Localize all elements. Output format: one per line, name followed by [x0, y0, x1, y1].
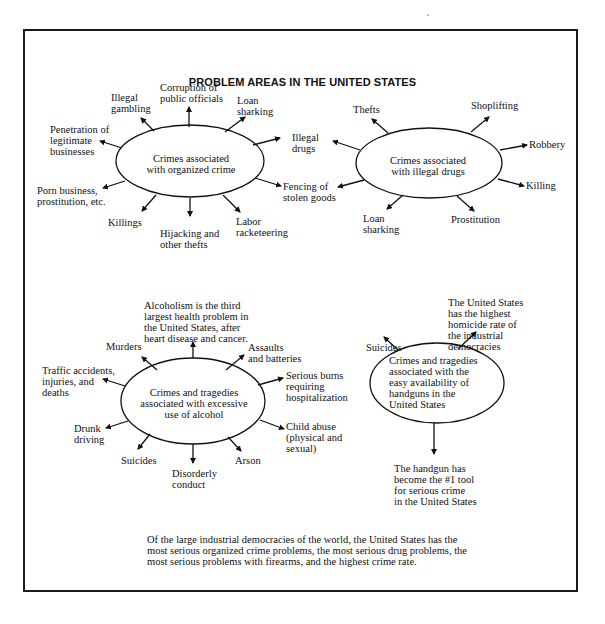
label-serious-burns: Serious burns requiring hospitalization — [286, 370, 348, 403]
label-traffic-accidents: Traffic accidents, injuries, and deaths — [42, 365, 115, 398]
label-hijacking: Hijacking and other thefts — [160, 228, 219, 250]
organized-crime-center: Crimes associated with organized crime — [141, 153, 241, 175]
illegal-drugs-center: Crimes associated with illegal drugs — [378, 155, 478, 177]
label-loan-sharking: Loan sharking — [237, 95, 273, 117]
label-killing: Killing — [526, 180, 556, 191]
label-alcoholism-note: Alcoholism is the third largest health p… — [144, 300, 249, 344]
label-fencing: Fencing of stolen goods — [283, 181, 336, 203]
label-robbery: Robbery — [529, 139, 565, 150]
label-drugs-loan-sharking: Loan sharking — [363, 213, 399, 235]
label-handgun-tool: The handgun has become the #1 tool for s… — [394, 463, 477, 507]
handguns-center: Crimes and tragedies associated with the… — [389, 355, 478, 410]
label-illegal-gambling: Illegal gambling — [111, 92, 151, 114]
label-homicide-rate: The United States has the highest homici… — [448, 297, 523, 352]
label-thefts: Thefts — [353, 104, 380, 115]
label-shoplifting: Shoplifting — [471, 100, 518, 111]
label-murders: Murders — [106, 341, 142, 352]
footnote: Of the large industrial democracies of t… — [147, 534, 477, 567]
label-illegal-drugs: Illegal drugs — [292, 132, 319, 154]
label-child-abuse: Child abuse (physical and sexual) — [286, 421, 342, 454]
label-corruption: Corruption of public officials — [160, 82, 223, 104]
label-labor-racketeering: Labor racketeering — [236, 216, 288, 238]
label-handgun-suicides: Suicides — [366, 342, 402, 353]
label-disorderly-conduct: Disorderly conduct — [172, 468, 217, 490]
label-porn-business: Porn business, prostitution, etc. — [37, 185, 106, 207]
label-penetration: Penetration of legitimate businesses — [50, 124, 109, 157]
alcohol-center: Crimes and tragedies associated with exc… — [133, 387, 255, 420]
label-killings: Killings — [108, 217, 142, 228]
label-alcohol-suicides: Suicides — [121, 455, 157, 466]
label-drunk-driving: Drunk driving — [74, 423, 104, 445]
label-prostitution: Prostitution — [451, 214, 500, 225]
label-assaults: Assaults and batteries — [248, 342, 301, 364]
label-arson: Arson — [235, 455, 261, 466]
